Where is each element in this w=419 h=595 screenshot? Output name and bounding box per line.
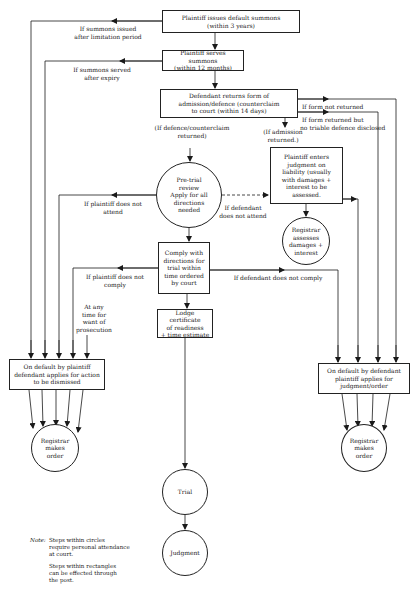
note-rectangles-line2: can be effected through — [49, 570, 117, 576]
enter-judgment-line1: Plaintiff enters — [284, 153, 329, 161]
comply-directions-box: Comply with directions for trial within … — [158, 242, 210, 294]
pretrial-review-line2: review — [179, 184, 199, 192]
label-no-triable-defence: If form returned but no triable defence … — [300, 116, 385, 131]
default-defendant-line3: judgment/order — [340, 382, 388, 390]
label-defendant-not-attend: If defendant does not attend — [218, 204, 268, 219]
label-defendant-not-comply: If defendant does not comply — [232, 274, 324, 282]
comply-directions-line3: trial within — [167, 264, 201, 272]
registrar-order-left-line1: Registrar — [41, 437, 70, 445]
serve-summons-line2: (within 12 months) — [174, 64, 232, 72]
defendant-returns-line1: Defendant returns form of — [189, 92, 269, 100]
issue-summons-line1: Plaintiff issues default summons — [182, 14, 280, 22]
judgment-circle: Judgment — [162, 530, 208, 576]
label-want-of-prosecution-line2: time for — [74, 311, 114, 319]
label-after-limitation-line1: If summons issued — [68, 25, 148, 33]
label-defendant-not-attend-line2: does not attend — [218, 212, 268, 220]
label-served-after-expiry: If summons served after expiry — [70, 66, 134, 81]
enter-judgment-box: Plaintiff enters judgment on liability (… — [270, 147, 343, 204]
label-admission-returned-line2: returned.) — [258, 136, 308, 144]
judgment-label: Judgment — [170, 549, 199, 557]
note-tag: Note: — [30, 537, 46, 544]
lodge-certificate-line3: + time estimate — [161, 331, 210, 339]
enter-judgment-line4: with damages + — [282, 176, 331, 184]
default-plaintiff-line2: defendant applies for action — [14, 371, 100, 379]
comply-directions-line5: by court — [171, 279, 196, 287]
note-circles: Steps within circles require personal at… — [49, 537, 130, 558]
label-plaintiff-not-comply-line1: If plaintiff does not — [80, 273, 150, 281]
label-after-limitation: If summons issued after limitation perio… — [68, 25, 148, 40]
lodge-certificate-line1: Lodge certificate — [160, 309, 210, 324]
label-plaintiff-not-comply-line2: comply — [80, 281, 150, 289]
registrar-assesses-line2: assesses — [293, 234, 319, 242]
comply-directions-line2: directions for — [163, 257, 204, 265]
label-admission-returned-line1: (If admission — [258, 128, 308, 136]
comply-directions-line1: Comply with — [165, 249, 203, 257]
comply-directions-line4: time ordered — [164, 272, 204, 280]
registrar-assesses-line4: interest — [294, 249, 318, 257]
registrar-order-right-line3: order — [356, 452, 373, 460]
defendant-returns-line2: admission/defence (counterclaim — [179, 100, 280, 108]
enter-judgment-line3: liability (usually — [282, 168, 331, 176]
issue-summons-box: Plaintiff issues default summons (within… — [162, 10, 300, 33]
label-form-not-returned: If form not returned — [302, 103, 363, 111]
enter-judgment-line5: interest to be — [286, 183, 327, 191]
label-want-of-prosecution-line3: want of — [74, 318, 114, 326]
label-defence-returned-line2: returned) — [152, 132, 232, 140]
legend-note: Note: Steps within circles require perso… — [30, 537, 130, 589]
registrar-order-left-line3: order — [47, 452, 64, 460]
pretrial-review-line5: needed — [178, 206, 200, 214]
registrar-assesses-line1: Registrar — [292, 226, 321, 234]
default-defendant-line2: plaintiff applies for — [335, 375, 393, 383]
registrar-assesses-circle: Registrar assesses damages + interest — [282, 217, 330, 265]
label-no-triable-defence-line1: If form returned but — [300, 116, 385, 124]
default-defendant-box: On default by defendant plaintiff applie… — [318, 363, 410, 394]
serve-summons-line1: Plaintiff serves summons — [165, 49, 241, 64]
note-rectangles: Steps within rectangles can be effected … — [49, 563, 130, 584]
label-admission-returned: (If admission returned.) — [258, 128, 308, 143]
label-defence-returned: (If defence/counterclaim returned) — [152, 124, 232, 139]
label-plaintiff-not-attend-line2: attend — [78, 208, 148, 216]
label-no-triable-defence-line2: no triable defence disclosed — [300, 124, 385, 132]
pretrial-review-line4: directions — [174, 199, 204, 207]
trial-label: Trial — [178, 488, 192, 496]
lodge-certificate-line2: of readiness — [166, 324, 203, 332]
note-rectangles-line3: the post. — [49, 577, 74, 583]
label-form-not-returned-line1: If form not returned — [302, 103, 363, 111]
serve-summons-box: Plaintiff serves summons (within 12 mont… — [162, 50, 244, 71]
registrar-order-right-circle: Registrar makes order — [341, 424, 387, 472]
label-want-of-prosecution-line4: prosecution — [74, 326, 114, 334]
label-want-of-prosecution-line1: At any — [74, 303, 114, 311]
default-plaintiff-line3: to be dismissed — [33, 378, 80, 386]
defendant-returns-box: Defendant returns form of admission/defe… — [160, 89, 298, 118]
registrar-order-right-line1: Registrar — [350, 437, 379, 445]
note-circles-line1: Steps within circles — [49, 537, 105, 543]
note-circles-line2: require personal attendance — [49, 544, 130, 550]
note-circles-line3: at court. — [49, 551, 73, 557]
lodge-certificate-box: Lodge certificate of readiness + time es… — [157, 309, 213, 338]
default-defendant-line1: On default by defendant — [327, 367, 401, 375]
label-after-limitation-line2: after limitation period — [68, 33, 148, 41]
defendant-returns-line3: to court (within 14 days) — [191, 107, 266, 115]
label-plaintiff-not-attend-line1: If plaintiff does not — [78, 200, 148, 208]
pretrial-review-circle: Pre-trial review Apply for all direction… — [156, 162, 222, 228]
label-want-of-prosecution: At any time for want of prosecution — [74, 303, 114, 333]
trial-circle: Trial — [162, 469, 208, 515]
registrar-order-left-line2: makes — [45, 444, 65, 452]
pretrial-review-line3: Apply for all — [170, 191, 207, 199]
label-served-after-expiry-line1: If summons served — [70, 66, 134, 74]
issue-summons-line2: (within 3 years) — [207, 22, 255, 30]
pretrial-review-line1: Pre-trial — [176, 176, 201, 184]
enter-judgment-line2: judgment on — [287, 161, 325, 169]
enter-judgment-line6: assessed. — [292, 191, 321, 199]
registrar-order-left-circle: Registrar makes order — [31, 424, 79, 472]
registrar-assesses-line3: damages + — [289, 241, 323, 249]
label-served-after-expiry-line2: after expiry — [70, 74, 134, 82]
label-defendant-not-attend-line1: If defendant — [218, 204, 268, 212]
registrar-order-right-line2: makes — [354, 444, 374, 452]
note-rectangles-line1: Steps within rectangles — [49, 563, 116, 569]
default-plaintiff-box: On default by plaintiff defendant applie… — [9, 359, 105, 390]
label-plaintiff-not-attend: If plaintiff does not attend — [78, 200, 148, 215]
default-plaintiff-line1: On default by plaintiff — [24, 363, 91, 371]
label-plaintiff-not-comply: If plaintiff does not comply — [80, 273, 150, 288]
label-defendant-not-comply-line1: If defendant does not comply — [232, 274, 324, 282]
